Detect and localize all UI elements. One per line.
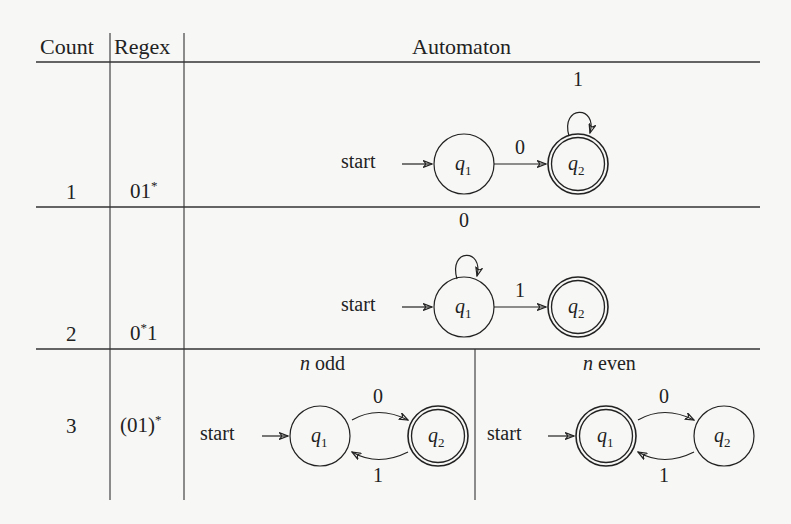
automata-table-figure: Count Regex Automaton 1 01* start q1 q2 … xyxy=(0,0,791,524)
row3-count: 3 xyxy=(66,414,77,439)
kleene-star: * xyxy=(151,178,158,193)
row3-even-start-label: start xyxy=(487,422,521,445)
row2-state-q2-label: q2 xyxy=(568,295,585,322)
row2-regex: 0*1 xyxy=(130,320,158,346)
row3-even-transition-label-1: 1 xyxy=(659,464,669,487)
row1-count: 1 xyxy=(66,180,77,205)
header-automaton: Automaton xyxy=(412,34,511,60)
regex-base: (01) xyxy=(120,413,155,437)
header-count: Count xyxy=(40,34,94,60)
row3-even-caption: n even xyxy=(583,352,636,375)
row3-even-transition-label-0: 0 xyxy=(659,385,669,408)
row1-loop-label-1: 1 xyxy=(573,68,583,91)
row1-state-q2-label: q2 xyxy=(568,152,585,179)
row1-state-q1-label: q1 xyxy=(455,152,472,179)
row3-odd-state-q1-label: q1 xyxy=(311,424,328,451)
row2-state-q1-label: q1 xyxy=(455,295,472,322)
row2-transition-label-1: 1 xyxy=(515,279,525,302)
row1-regex: 01* xyxy=(130,178,158,204)
header-regex: Regex xyxy=(114,34,170,60)
regex-base: 01 xyxy=(130,179,151,203)
self-loop-q1 xyxy=(456,255,478,279)
row3-even-state-q2-label: q2 xyxy=(714,424,731,451)
transition-q2-q1 xyxy=(638,452,694,460)
row3-even-state-q1-label: q1 xyxy=(597,424,614,451)
row3-regex: (01)* xyxy=(120,412,162,438)
kleene-star: * xyxy=(155,412,162,427)
row2-start-label: start xyxy=(341,293,375,316)
row2-count: 2 xyxy=(66,322,77,347)
row3-odd-transition-label-1: 1 xyxy=(373,464,383,487)
row3-odd-state-q2-label: q2 xyxy=(428,424,445,451)
row3-odd-transition-label-0: 0 xyxy=(373,385,383,408)
regex-tail: 1 xyxy=(147,321,158,345)
row3-odd-caption: n odd xyxy=(300,352,345,375)
transition-q1-q2 xyxy=(638,413,694,421)
row1-start-label: start xyxy=(341,150,375,173)
row2-loop-label-0: 0 xyxy=(459,209,469,232)
row3-odd-start-label: start xyxy=(200,422,234,445)
transition-q1-q2 xyxy=(352,413,408,421)
row1-transition-label-0: 0 xyxy=(515,136,525,159)
regex-base: 0 xyxy=(130,321,141,345)
transition-q2-q1 xyxy=(352,452,408,460)
self-loop-q2 xyxy=(568,112,592,136)
table-rules-and-diagrams xyxy=(0,0,791,524)
